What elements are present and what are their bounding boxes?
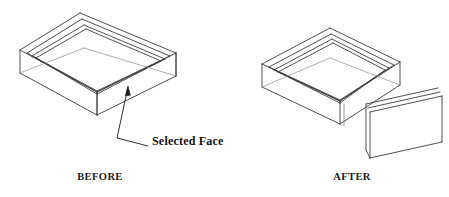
before-tray-group — [20, 13, 176, 115]
plate-bottom-edge — [370, 142, 442, 158]
selected-face-arrowhead — [125, 86, 130, 96]
detached-face-plate — [366, 88, 442, 158]
caption-after: AFTER — [262, 171, 442, 182]
plate-top-outer — [366, 88, 438, 104]
after-vertical-edges — [262, 62, 400, 124]
after-tray-group — [262, 28, 400, 126]
before-cavity-floor — [32, 25, 165, 92]
caption-before: BEFORE — [0, 171, 200, 182]
before-selected-face — [97, 53, 176, 115]
selected-face-label: Selected Face — [152, 134, 224, 149]
diagram-canvas: BEFORE AFTER Selected Face — [0, 0, 449, 197]
plate-left-cap-bottom — [366, 150, 370, 158]
after-bottom-outline — [262, 85, 400, 124]
selected-face-leader — [117, 87, 148, 146]
before-bottom-outline — [20, 73, 176, 115]
before-inner-top-rim — [27, 19, 170, 91]
before-vertical-edges — [20, 50, 176, 115]
after-far-bottom-edges — [262, 58, 400, 87]
technical-drawing — [0, 0, 449, 197]
plate-top-mid — [368, 92, 440, 108]
plate-top-inner — [370, 96, 442, 112]
after-outer-top-rim — [262, 28, 400, 101]
